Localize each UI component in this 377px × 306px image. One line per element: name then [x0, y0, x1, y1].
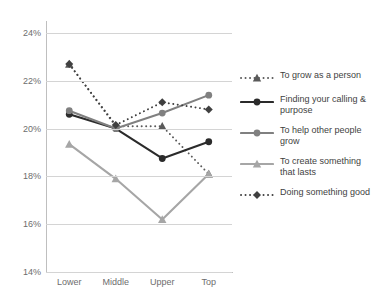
x-tick-label: Upper: [150, 277, 175, 287]
chart-legend: To grow as a personFinding your calling …: [240, 70, 377, 211]
series-4: [65, 140, 213, 223]
y-axis-labels: 14%16%18%20%22%24%: [0, 0, 41, 306]
legend-item-1[interactable]: To grow as a person: [240, 70, 377, 85]
y-tick-label: 22%: [23, 76, 41, 86]
gridline: [46, 224, 232, 225]
plot-area: [46, 33, 232, 272]
y-tick-label: 18%: [23, 171, 41, 181]
legend-marker-icon: [240, 188, 274, 202]
legend-marker-icon: [240, 126, 274, 140]
legend-item-label: To grow as a person: [280, 70, 376, 81]
legend-item-label: Doing something good: [280, 187, 376, 198]
gridline: [46, 272, 232, 273]
legend-marker-icon: [240, 95, 274, 109]
legend-item-label: Finding your calling & purpose: [280, 94, 376, 116]
gridline: [46, 33, 232, 34]
x-tick-label: Middle: [102, 277, 129, 287]
y-tick-label: 14%: [23, 267, 41, 277]
legend-item-2[interactable]: Finding your calling & purpose: [240, 94, 377, 116]
gridline: [46, 81, 232, 82]
series-3: [66, 92, 212, 132]
legend-item-3[interactable]: To help other people grow: [240, 125, 377, 147]
legend-item-5[interactable]: Doing something good: [240, 187, 377, 202]
gridline: [46, 176, 232, 177]
legend-marker-icon: [240, 71, 274, 85]
x-tick-label: Top: [201, 277, 216, 287]
x-tick-label: Lower: [57, 277, 82, 287]
legend-marker-icon: [240, 157, 274, 171]
line-chart: 14%16%18%20%22%24% LowerMiddleUpperTop T…: [0, 0, 377, 306]
y-tick-label: 20%: [23, 124, 41, 134]
legend-item-label: To create something that lasts: [280, 156, 376, 178]
gridline: [46, 129, 232, 130]
y-tick-label: 24%: [23, 28, 41, 38]
legend-item-label: To help other people grow: [280, 125, 376, 147]
legend-item-4[interactable]: To create something that lasts: [240, 156, 377, 178]
y-tick-label: 16%: [23, 219, 41, 229]
series-layer: [46, 33, 232, 272]
